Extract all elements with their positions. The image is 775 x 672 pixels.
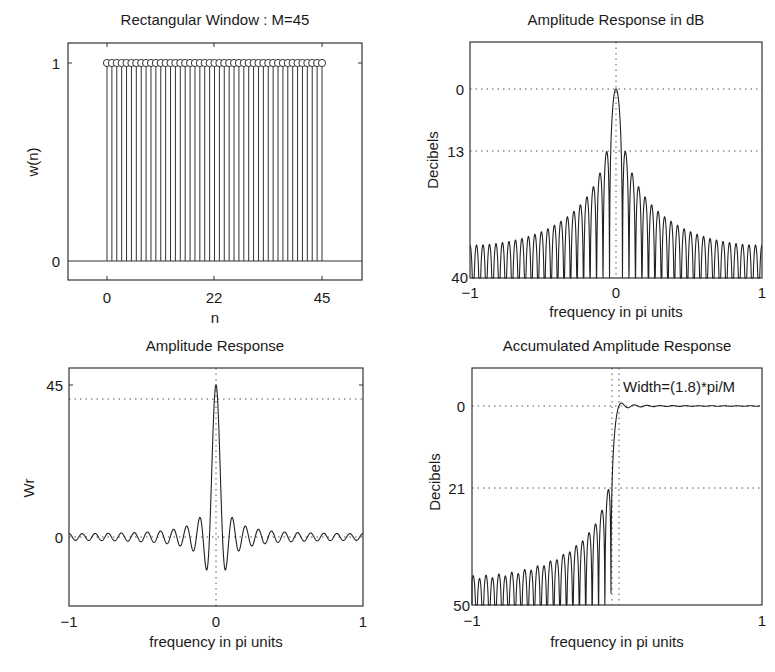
x-tick-label: 1 [359, 613, 367, 630]
y-axis-label: Decibels [426, 453, 443, 511]
y-tick-label: 0 [457, 398, 465, 415]
x-tick-label: −1 [463, 612, 480, 629]
x-tick-label: 1 [758, 612, 766, 629]
x-axis-label: frequency in pi units [550, 633, 683, 650]
panel-rect-window: Rectangular Window : M=45 0 22 45 0 1 n … [24, 11, 362, 326]
x-tick-label: 0 [612, 284, 620, 301]
figure: Rectangular Window : M=45 0 22 45 0 1 n … [0, 0, 775, 672]
accumulated-curve [472, 403, 760, 605]
y-tick-label: 0 [456, 81, 464, 98]
panel-title: Rectangular Window : M=45 [121, 11, 310, 28]
stem-series [103, 59, 325, 261]
x-tick-label: 0 [103, 289, 111, 306]
x-tick-label: 0 [212, 613, 220, 630]
panel-title: Amplitude Response in dB [528, 11, 705, 28]
panel-amp-db: Amplitude Response in dB −1 0 1 0 13 40 … [424, 11, 766, 320]
width-annotation: Width=(1.8)*pi/M [623, 378, 735, 395]
panel-accum-amp: Accumulated Amplitude Response Width=(1.… [426, 337, 766, 650]
y-axis-label: Wr [20, 479, 37, 498]
x-axis-label: frequency in pi units [549, 303, 682, 320]
x-tick-label: 45 [314, 289, 331, 306]
y-tick-label: 0 [52, 253, 60, 270]
x-tick-label: 1 [758, 284, 766, 301]
y-tick-label: 0 [55, 529, 63, 546]
y-tick-label: 13 [447, 143, 464, 160]
y-tick-label: 50 [453, 597, 470, 614]
x-tick-label: −1 [461, 284, 478, 301]
x-axis-label: frequency in pi units [149, 633, 282, 650]
x-tick-label: 22 [206, 289, 223, 306]
y-tick-label: 45 [46, 377, 63, 394]
axes-box [472, 368, 762, 605]
y-axis-label: w(n) [24, 147, 41, 177]
y-tick-label: 1 [52, 55, 60, 72]
axes-box [69, 368, 363, 606]
panel-amp-resp: Amplitude Response −1 0 1 0 45 frequency… [20, 337, 367, 650]
panel-title: Amplitude Response [146, 337, 284, 354]
db-response-curve [470, 89, 762, 278]
y-axis-label: Decibels [424, 131, 441, 189]
y-tick-label: 40 [451, 269, 468, 286]
x-tick-label: −1 [60, 613, 77, 630]
panel-title: Accumulated Amplitude Response [503, 337, 731, 354]
x-axis-label: n [211, 309, 219, 326]
y-tick-label: 21 [448, 480, 465, 497]
axes-box [470, 42, 762, 278]
